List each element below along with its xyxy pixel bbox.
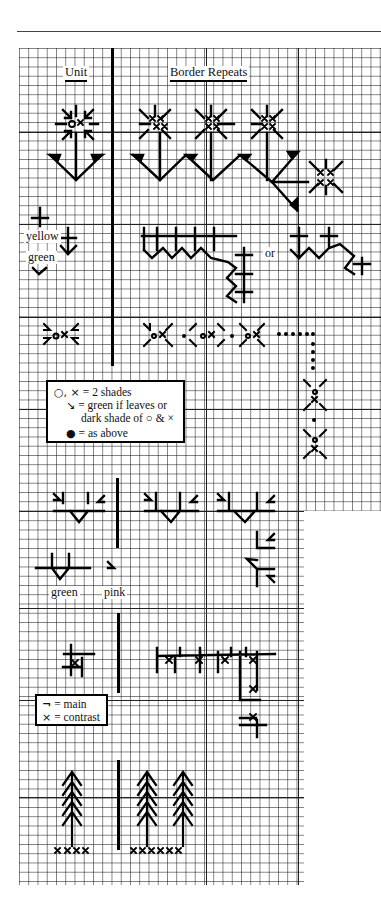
pink-label: pink	[102, 586, 127, 599]
yellow-label: yellow	[24, 230, 61, 243]
leaf-v-pattern	[36, 493, 274, 586]
or-label: or	[263, 247, 277, 260]
unit-heading-text: Unit	[65, 65, 87, 79]
legend-main-contrast: ¬ = main × = contrast	[35, 694, 108, 726]
dot-stitches	[182, 332, 316, 422]
flower-unit-pattern	[50, 106, 102, 180]
legend-text: = 2 shades	[83, 386, 132, 399]
heading-underline	[65, 80, 87, 82]
legend-row: ○, × = 2 shades	[54, 386, 177, 399]
legend-text: = green if leaves or	[78, 399, 167, 412]
legend-text: = main	[54, 698, 86, 711]
legend-row: ● = as above	[54, 427, 177, 440]
legend-text: = contrast	[54, 711, 100, 724]
dot-symbol-icon: ●	[66, 427, 76, 440]
legend-text: dark shade of ○ & ×	[81, 412, 174, 425]
flower-repeat-pattern	[133, 106, 342, 210]
arrow-border-pattern	[32, 208, 370, 302]
heading-underline	[170, 80, 247, 82]
circle-cross-symbol-icon: ○, ×	[54, 386, 80, 399]
border-repeats-heading: Border Repeats	[168, 66, 249, 82]
legend-shades: ○, × = 2 shades ↘ = green if leaves or d…	[46, 380, 185, 443]
legend-row: ¬ = main	[42, 698, 101, 711]
flower-x-stitches	[69, 116, 333, 185]
border-repeats-heading-text: Border Repeats	[170, 65, 247, 79]
corner-symbol-icon: ¬	[42, 698, 51, 711]
cross-symbol-icon: ×	[42, 711, 51, 724]
legend-row: ↘ = green if leaves or	[54, 399, 177, 412]
unit-heading: Unit	[63, 66, 89, 82]
stitch-patterns	[0, 0, 381, 916]
green-label-top: green	[26, 251, 57, 264]
legend-text: = as above	[79, 427, 128, 440]
green-label-bottom: green	[49, 586, 80, 599]
tree-pattern	[55, 772, 192, 853]
legend-row: × = contrast	[42, 711, 101, 724]
legend-row: dark shade of ○ & ×	[54, 412, 177, 425]
arrow-symbol-icon: ↘	[66, 399, 75, 412]
